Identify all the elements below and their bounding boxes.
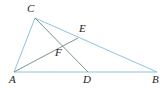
vertex-label-F: F	[55, 47, 62, 58]
segment-CB	[35, 18, 157, 72]
vertex-label-C: C	[27, 3, 34, 14]
vertex-label-E: E	[79, 23, 86, 34]
vertex-label-D: D	[83, 74, 91, 85]
segment-AC	[14, 18, 35, 72]
segment-AE	[14, 38, 78, 72]
vertex-label-A: A	[9, 74, 16, 85]
vertex-label-B: B	[152, 74, 159, 85]
geometry-figure: A B C D E F	[0, 0, 166, 88]
